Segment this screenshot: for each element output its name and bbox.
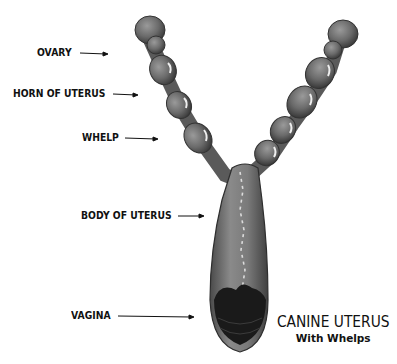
diagram-canvas: OVARY HORN OF UTERUS WHELP BODY OF UTERU… [0, 0, 397, 364]
label-whelp: WHELP [82, 131, 119, 143]
diagram-title-block: CANINE UTERUS With Whelps [272, 313, 394, 344]
diagram-subtitle: With Whelps [272, 332, 394, 344]
right-horn [250, 20, 358, 175]
label-body-of-uterus: BODY OF UTERUS [81, 209, 172, 221]
label-vagina: VAGINA [71, 309, 111, 321]
diagram-title: CANINE UTERUS [277, 313, 390, 331]
uterine-body [210, 164, 268, 352]
label-ovary: OVARY [37, 46, 72, 58]
label-horn-of-uterus: HORN OF UTERUS [13, 87, 105, 99]
left-horn [135, 16, 238, 180]
